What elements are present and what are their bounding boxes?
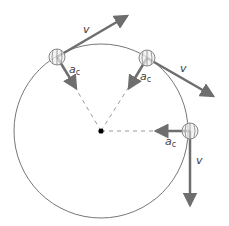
position-right: v ac [156,123,203,205]
acceleration-label: ac [165,135,176,149]
acceleration-label: ac [140,70,151,84]
ball-icon [182,123,198,139]
ball-icon [139,50,155,66]
velocity-label: v [196,154,203,167]
acceleration-label: ac [69,63,80,77]
position-top-left: v ac [49,16,127,88]
position-top-right: v ac [129,50,213,96]
center-point [98,128,103,133]
ball-icon [49,49,65,65]
circular-motion-diagram: v ac v ac v ac [0,0,229,226]
velocity-arrow [57,16,127,57]
velocity-label: v [83,23,90,36]
velocity-label: v [180,62,187,75]
